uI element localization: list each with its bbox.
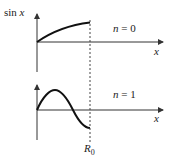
bottom-curve-n1: [37, 90, 90, 128]
bottom-x-label: x: [154, 112, 159, 124]
diagram-canvas: [0, 0, 172, 155]
bottom-panel: [37, 85, 163, 140]
top-mode-label: n = 0: [113, 22, 136, 34]
bottom-mode-label: n = 1: [113, 88, 136, 100]
top-panel: [37, 14, 163, 72]
boundary-label: R0: [84, 142, 95, 155]
top-curve-n0: [37, 23, 90, 43]
top-x-label: x: [154, 45, 159, 57]
top-y-label: sin x: [4, 6, 24, 18]
